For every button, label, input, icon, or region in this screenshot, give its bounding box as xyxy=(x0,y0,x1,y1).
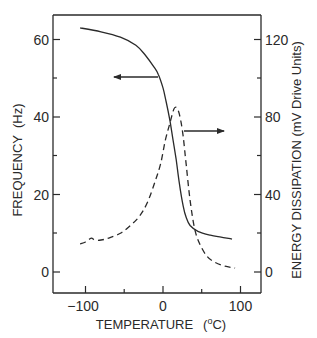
y2-tick-label-0: 0 xyxy=(265,264,273,280)
chart: 0 20 40 60 0 40 80 120 −100 0 100 TEMPER… xyxy=(0,0,317,338)
right-tick-labels: 0 40 80 120 xyxy=(265,32,289,281)
y2-tick-label-120: 120 xyxy=(265,32,289,48)
y-tick-label-20: 20 xyxy=(33,187,49,203)
y-axis-title: FREQUENCY (Hz) xyxy=(10,103,25,216)
x-tick-label-100: 100 xyxy=(229,298,253,314)
frequency-curve xyxy=(80,28,232,239)
y-tick-label-0: 0 xyxy=(41,264,49,280)
x-tick-label-0: 0 xyxy=(159,298,167,314)
y-tick-label-60: 60 xyxy=(33,32,49,48)
x-tick-label-minus100: −100 xyxy=(67,298,99,314)
x-tick-labels: −100 0 100 xyxy=(67,298,252,314)
left-axis-ticks xyxy=(53,40,60,273)
y2-tick-label-40: 40 xyxy=(265,187,281,203)
x-axis-title-close: C) xyxy=(212,317,226,332)
x-axis-title: TEMPERATURE(oC) xyxy=(96,316,226,332)
bottom-axis-ticks xyxy=(86,286,241,293)
x-axis-title-main: TEMPERATURE xyxy=(96,317,194,332)
y2-tick-label-80: 80 xyxy=(265,109,281,125)
left-tick-labels: 0 20 40 60 xyxy=(33,32,49,281)
y2-axis-title: ENERGY DISSIPATION (mV Drive Units) xyxy=(289,41,304,279)
plot-frame xyxy=(53,15,261,293)
right-axis-ticks xyxy=(254,40,261,273)
y-tick-label-40: 40 xyxy=(33,109,49,125)
